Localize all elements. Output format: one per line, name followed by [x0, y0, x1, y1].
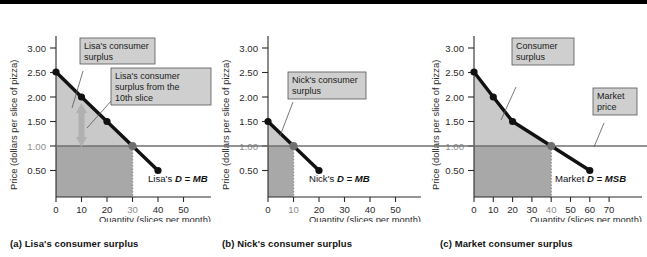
- y-axis-title-c: Price (dollars per slice of pizza): [430, 60, 441, 190]
- y-tick-label-b-0: 0.50: [239, 165, 258, 176]
- y-tick-label-c-2: 1.50: [445, 116, 464, 127]
- curve-label-b: Nick's D = MB: [309, 173, 370, 184]
- panel-caption-b: (b) Nick's consumer surplus: [222, 238, 352, 249]
- callout-b-surplus-line-0: Nick's consumer: [292, 75, 358, 85]
- panel-market-consumer-surplus: 0.50 1.00 1.50 2.00 2.50 3.00 0 10 20 30…: [426, 10, 647, 257]
- callout-a-surplus: Lisa's consumer surplus: [80, 38, 155, 64]
- callout-a-surplus-line-0: Lisa's consumer: [84, 41, 149, 51]
- y-tick-label-c-0: 0.50: [445, 165, 464, 176]
- panel-nick-consumer-surplus: 0.50 1.00 1.50 2.00 2.50 3.00 0 10 20 30…: [216, 10, 426, 257]
- y-ticks-a: [50, 48, 56, 171]
- plot-area-c: 0.50 1.00 1.50 2.00 2.50 3.00 0 10 20 30…: [426, 10, 647, 222]
- x-ticks-b: [268, 197, 396, 202]
- callout-c-price-line-0: Market: [597, 91, 625, 101]
- y-ticks-c: [468, 48, 474, 171]
- x-tick-label-a-0: 0: [53, 204, 58, 215]
- panel-caption-a: (a) Lisa's consumer surplus: [10, 238, 139, 249]
- x-tick-label-c-1: 10: [488, 204, 499, 215]
- y-axis-title-b: Price (dollars per slice of pizza): [220, 60, 231, 190]
- callout-c-price-line-1: price: [597, 102, 617, 112]
- callout-c-market-price: Market price: [593, 88, 637, 115]
- callout-leader-b-1: [280, 102, 293, 136]
- y-tick-label-a-5: 3.00: [27, 43, 46, 54]
- panel-caption-c: (c) Market consumer surplus: [440, 238, 573, 249]
- x-tick-label-b-1: 10: [288, 204, 299, 215]
- y-tick-label-a-0: 0.50: [27, 165, 46, 176]
- y-tick-label-a-3: 2.00: [27, 92, 46, 103]
- expenditure-area-a: [56, 146, 133, 197]
- callout-a-tenth-line-2: 10th slice: [115, 93, 153, 103]
- x-tick-label-b-0: 0: [265, 204, 270, 215]
- y-tick-label-c-4: 2.50: [445, 67, 464, 78]
- y-axis-title-a: Price (dollars per slice of pizza): [8, 60, 19, 190]
- callout-b-surplus-line-1: surplus: [292, 86, 322, 96]
- x-axis-title-b: Quantity (slices per month): [309, 214, 421, 222]
- surplus-area-c: [474, 72, 551, 146]
- plot-area-a: 0.50 1.00 1.50 2.00 2.50 3.00 0 10 20 30…: [0, 10, 216, 222]
- y-tick-label-c-5: 3.00: [445, 43, 464, 54]
- y-tick-label-a-2: 1.50: [27, 116, 46, 127]
- callout-c-surplus-line-1: surplus: [516, 52, 546, 62]
- top-rule-divider: [0, 0, 647, 4]
- curve-label-c: Market D = MSB: [555, 173, 626, 184]
- callout-c-surplus-line-0: Consumer: [516, 41, 558, 51]
- x-ticks-a: [56, 197, 184, 202]
- y-tick-label-a-1: 1.00: [27, 141, 46, 152]
- callout-a-surplus-line-1: surplus: [84, 52, 114, 62]
- x-tick-label-a-1: 10: [76, 204, 87, 215]
- y-tick-label-b-3: 2.00: [239, 92, 258, 103]
- curve-label-a: Lisa's D = MB: [148, 173, 208, 184]
- y-tick-label-a-4: 2.50: [27, 67, 46, 78]
- x-ticks-c: [474, 197, 609, 202]
- y-tick-label-b-2: 1.50: [239, 116, 258, 127]
- panel-lisa-consumer-surplus: 0.50 1.00 1.50 2.00 2.50 3.00 0 10 20 30…: [0, 10, 216, 257]
- x-tick-label-c-2: 20: [507, 204, 518, 215]
- expenditure-area-b: [268, 146, 294, 197]
- plot-area-b: 0.50 1.00 1.50 2.00 2.50 3.00 0 10 20 30…: [216, 10, 426, 222]
- y-ticks-b: [262, 48, 268, 171]
- y-tick-label-b-5: 3.00: [239, 43, 258, 54]
- callout-c-surplus: Consumer surplus: [512, 38, 574, 65]
- callout-b-surplus: Nick's consumer surplus: [288, 72, 366, 99]
- expenditure-area-c: [474, 146, 551, 197]
- x-tick-label-c-0: 0: [471, 204, 476, 215]
- consumer-surplus-figure: 0.50 1.00 1.50 2.00 2.50 3.00 0 10 20 30…: [0, 0, 647, 257]
- y-tick-label-c-3: 2.00: [445, 92, 464, 103]
- callout-a-tenth-line-0: Lisa's consumer: [115, 71, 180, 81]
- x-axis-title-a: Quantity (slices per month): [99, 214, 211, 222]
- x-axis-title-c: Quantity (slices per month): [530, 214, 642, 222]
- callout-a-tenth-slice: Lisa's consumer surplus from the 10th sl…: [111, 68, 211, 105]
- callout-a-tenth-line-1: surplus from the: [115, 82, 180, 92]
- callout-leader-c-2: [594, 123, 604, 147]
- y-tick-label-b-4: 2.50: [239, 67, 258, 78]
